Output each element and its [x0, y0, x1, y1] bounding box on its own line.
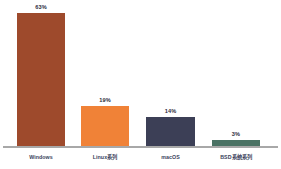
bar-group-3[interactable]: 3%	[212, 0, 260, 147]
bar-group-0[interactable]: 63%	[17, 0, 65, 147]
x-axis-label-bsd: BSD系统系列	[208, 155, 264, 160]
bar-value-label-2: 14%	[165, 109, 177, 115]
x-axis-label-windows: Windows	[17, 155, 65, 160]
x-axis-line	[3, 146, 278, 148]
bar-value-label-0: 63%	[35, 5, 47, 11]
x-axis-label-linux: Linux系列	[81, 155, 129, 160]
plot-area: 63% 19% 14% 3%	[0, 0, 281, 147]
bar-macos[interactable]	[146, 117, 195, 147]
bar-linux[interactable]	[81, 106, 129, 147]
bar-group-1[interactable]: 19%	[81, 0, 129, 147]
bar-value-label-3: 3%	[232, 132, 240, 138]
bar-windows[interactable]	[17, 13, 65, 147]
bar-value-label-1: 19%	[99, 98, 111, 104]
bar-chart: 63% 19% 14% 3% Windows Linux系列 macOS BSD…	[0, 0, 281, 169]
bar-group-2[interactable]: 14%	[146, 0, 195, 147]
x-axis-label-macos: macOS	[146, 155, 195, 160]
